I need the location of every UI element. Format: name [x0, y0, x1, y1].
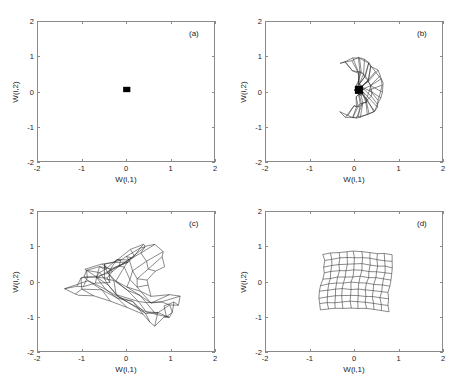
- x-tick: [171, 349, 172, 352]
- lattice-edge: [353, 70, 378, 117]
- y-tick: [265, 127, 268, 128]
- y-axis-label: W(i,2): [239, 81, 248, 102]
- y-tick: [265, 56, 268, 57]
- y-tick-label: 1: [249, 242, 262, 251]
- x-tick-label: -1: [78, 164, 85, 173]
- lattice-edge: [340, 58, 382, 95]
- lattice-edge: [83, 270, 169, 303]
- x-tick-label: -1: [306, 354, 313, 363]
- x-tick: [265, 159, 266, 162]
- lattice-edge: [320, 301, 388, 305]
- lattice-edge: [107, 256, 147, 280]
- som-lattice: [0, 0, 457, 380]
- x-tick: [354, 159, 355, 162]
- y-tick-right: [212, 21, 215, 22]
- lattice-edge: [340, 83, 383, 118]
- lattice-edge: [81, 264, 113, 296]
- x-tick-label: 0: [352, 354, 356, 363]
- figure-canvas: -2-1012-2-1012W(i,1)W(i,2)(a)-2-1012-2-1…: [0, 0, 457, 380]
- x-tick-top: [37, 21, 38, 24]
- y-tick-label: 0: [21, 87, 34, 96]
- y-tick-label: 2: [249, 207, 262, 216]
- x-tick-label: 2: [213, 164, 217, 173]
- y-tick-label: -2: [249, 348, 262, 357]
- y-tick-label: 0: [249, 277, 262, 286]
- y-tick-label: -1: [21, 122, 34, 131]
- lattice-edge: [335, 253, 340, 309]
- subplot-d: -2-1012-2-1012W(i,1)W(i,2)(d): [0, 0, 457, 380]
- lattice-edge: [107, 246, 150, 322]
- lattice-edge: [127, 252, 170, 318]
- y-tick: [37, 21, 40, 22]
- x-tick-top: [443, 211, 444, 214]
- lattice-edge: [365, 253, 370, 309]
- lattice-edge: [320, 308, 389, 312]
- lattice-edge: [356, 72, 376, 117]
- lattice-edge: [350, 251, 354, 308]
- som-lattice: [0, 0, 457, 380]
- lattice-edge: [353, 58, 381, 98]
- lattice-edge: [104, 244, 143, 314]
- lattice-edge: [348, 85, 382, 115]
- subplot-c: -2-1012-2-1012W(i,1)W(i,2)(c): [0, 0, 457, 380]
- lattice-edge: [319, 289, 388, 293]
- y-tick-right: [440, 56, 443, 57]
- lattice-edge: [79, 295, 167, 326]
- lattice-edge: [319, 295, 389, 298]
- x-tick-top: [37, 211, 38, 214]
- y-tick-right: [440, 317, 443, 318]
- x-tick: [37, 349, 38, 352]
- lattice-edge: [96, 249, 134, 307]
- y-tick-right: [212, 127, 215, 128]
- plot-frame: [37, 211, 215, 352]
- lattice-edge: [352, 61, 378, 108]
- lattice-edge: [65, 269, 110, 295]
- y-tick-right: [212, 317, 215, 318]
- y-tick-right: [212, 211, 215, 212]
- y-tick: [37, 246, 40, 247]
- x-tick-top: [126, 21, 127, 24]
- y-tick-right: [440, 282, 443, 283]
- x-tick-label: -2: [262, 164, 269, 173]
- x-tick-label: 0: [124, 164, 128, 173]
- y-tick: [37, 56, 40, 57]
- x-tick-label: 2: [213, 354, 217, 363]
- x-tick-top: [399, 21, 400, 24]
- y-tick-label: -1: [249, 122, 262, 131]
- lattice-edge: [77, 277, 180, 303]
- y-tick: [37, 282, 40, 283]
- subplot-b: -2-1012-2-1012W(i,1)W(i,2)(b): [0, 0, 457, 380]
- x-tick-label: -2: [262, 354, 269, 363]
- x-tick: [215, 349, 216, 352]
- y-tick: [265, 352, 268, 353]
- x-tick: [265, 349, 266, 352]
- x-tick: [126, 159, 127, 162]
- x-tick-label: 1: [168, 164, 172, 173]
- y-tick-right: [212, 56, 215, 57]
- y-tick-label: -1: [21, 312, 34, 321]
- x-tick-top: [265, 211, 266, 214]
- x-tick: [126, 349, 127, 352]
- y-tick-right: [440, 211, 443, 212]
- lattice-edge: [323, 276, 391, 280]
- x-tick: [399, 349, 400, 352]
- x-tick: [171, 159, 172, 162]
- lattice-edge: [84, 262, 128, 301]
- lattice-edge: [323, 251, 392, 255]
- x-tick-top: [265, 21, 266, 24]
- x-tick-top: [354, 211, 355, 214]
- y-tick-right: [440, 21, 443, 22]
- lattice-edge: [345, 62, 382, 92]
- y-tick-right: [212, 246, 215, 247]
- y-tick-label: -1: [249, 312, 262, 321]
- lattice-edge: [354, 66, 371, 115]
- lattice-edge: [388, 255, 392, 312]
- lattice-edge: [327, 253, 332, 309]
- x-tick: [82, 159, 83, 162]
- x-axis-label: W(i,1): [343, 175, 364, 184]
- lattice-edge: [345, 62, 378, 100]
- x-tick-label: 1: [396, 164, 400, 173]
- weight-cluster: [123, 87, 130, 92]
- subplot-a: -2-1012-2-1012W(i,1)W(i,2)(a): [0, 0, 457, 380]
- lattice-edge: [355, 58, 377, 104]
